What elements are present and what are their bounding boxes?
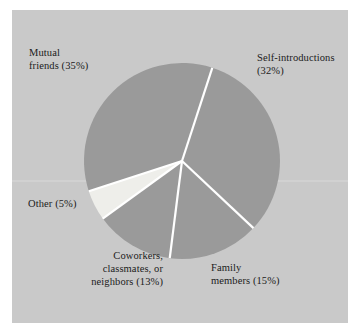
pie-label-family-members: Family members (15%) bbox=[211, 261, 321, 287]
pie-chart-figure: Mutual friends (35%) Self-introductions … bbox=[0, 0, 359, 335]
pie-label-self-introductions: Self-introductions (32%) bbox=[257, 51, 357, 77]
pie-label-other: Other (5%) bbox=[28, 197, 108, 210]
pie-label-coworkers-classmates-neighbors: Coworkers, classmates, or neighbors (13%… bbox=[44, 249, 163, 288]
pie-label-mutual-friends: Mutual friends (35%) bbox=[29, 46, 139, 72]
